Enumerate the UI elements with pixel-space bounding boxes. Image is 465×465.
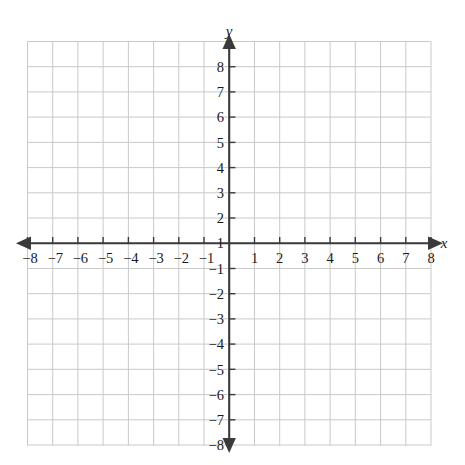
x-axis-label: x bbox=[440, 235, 448, 251]
x-tick-label: −8 bbox=[22, 250, 37, 266]
y-tick-label: 3 bbox=[217, 185, 224, 201]
x-tick-label: 5 bbox=[352, 250, 359, 266]
y-tick-label: 5 bbox=[217, 135, 224, 151]
graph-canvas: −8 −7 −6 −5 −4 −3 −2 −1 1 2 3 4 5 6 7 8 … bbox=[0, 0, 465, 465]
y-tick-label: 7 bbox=[217, 84, 224, 100]
y-tick-label: −7 bbox=[209, 412, 224, 428]
x-tick-label: 6 bbox=[377, 250, 384, 266]
y-tick-label: −4 bbox=[209, 336, 225, 352]
y-tick-label: 6 bbox=[217, 109, 224, 125]
y-tick-label: −5 bbox=[209, 362, 224, 378]
x-tick-label: −4 bbox=[123, 250, 139, 266]
y-tick-label: 8 bbox=[217, 59, 224, 75]
x-tick-label: −7 bbox=[47, 250, 62, 266]
y-tick-label: 2 bbox=[217, 210, 224, 226]
y-tick-label: −3 bbox=[209, 311, 224, 327]
x-tick-label: 2 bbox=[276, 250, 283, 266]
coordinate-plane: −8 −7 −6 −5 −4 −3 −2 −1 1 2 3 4 5 6 7 8 … bbox=[0, 0, 465, 465]
x-tick-label: 3 bbox=[301, 250, 308, 266]
y-tick-label: −1 bbox=[209, 261, 224, 277]
x-tick-label: 7 bbox=[402, 250, 409, 266]
y-axis-label: y bbox=[224, 23, 233, 39]
y-tick-label: 4 bbox=[217, 160, 225, 176]
x-tick-label: −2 bbox=[174, 250, 189, 266]
x-tick-label: −6 bbox=[73, 250, 88, 266]
y-tick-label: 1 bbox=[217, 235, 224, 251]
y-tick-label: −6 bbox=[209, 387, 224, 403]
x-tick-label: −3 bbox=[148, 250, 163, 266]
x-tick-label: 8 bbox=[427, 250, 434, 266]
y-tick-label: −2 bbox=[209, 286, 224, 302]
y-tick-label: −8 bbox=[209, 437, 224, 453]
x-tick-label: 1 bbox=[251, 250, 258, 266]
x-tick-label: −5 bbox=[98, 250, 113, 266]
x-tick-label: 4 bbox=[326, 250, 334, 266]
